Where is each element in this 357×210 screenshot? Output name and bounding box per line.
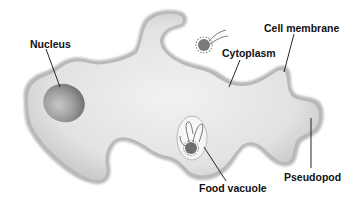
cell-membrane-label: Cell membrane [264,22,339,34]
cell-membrane-leader-line [284,34,294,72]
cytoplasm-label: Cytoplasm [222,47,276,59]
pseudopod-label: Pseudopod [284,171,341,183]
food-vacuole-label: Food vacuole [199,182,267,194]
amoeba-diagram: Nucleus Cytoplasm Cell membrane Food vac… [0,0,357,210]
food-vacuole-organelle [177,116,207,160]
nucleus-label: Nucleus [30,38,71,50]
